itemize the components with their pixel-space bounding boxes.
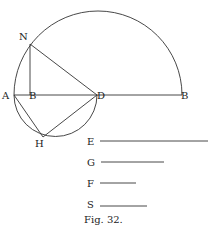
label-A: A — [1, 90, 10, 101]
label-D: D — [97, 90, 105, 101]
label-G: G — [87, 157, 95, 168]
label-B-foot: B — [29, 90, 36, 101]
large-semicircle — [14, 11, 182, 95]
label-B: B — [181, 90, 188, 101]
segment-HD — [43, 95, 97, 137]
figure-32: N A B D H B E G F S Fig. 32. — [0, 0, 210, 228]
label-E: E — [87, 136, 94, 147]
segment-AH — [14, 95, 43, 137]
label-S: S — [87, 199, 94, 210]
segment-ND — [30, 44, 97, 95]
figure-caption: Fig. 32. — [84, 214, 123, 225]
label-N: N — [19, 31, 28, 42]
small-semicircle — [14, 95, 97, 136]
label-H: H — [35, 138, 44, 149]
label-F: F — [87, 178, 94, 189]
geometry-diagram: N A B D H B E G F S Fig. 32. — [0, 0, 210, 228]
